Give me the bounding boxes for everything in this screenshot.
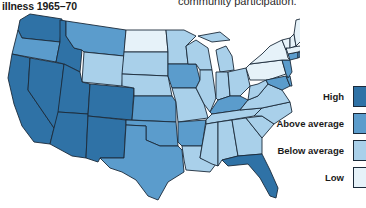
legend-label: Low [325,172,344,183]
state-WA [18,14,62,42]
legend-item-low: Low [236,167,366,189]
state-KS [132,96,176,122]
legend-swatch [353,113,366,134]
legend-swatch [353,167,366,188]
state-ND [124,30,168,52]
state-RI [298,52,300,58]
legend-item-above-average: Above average [236,113,366,135]
legend-label: Above average [276,118,344,129]
state-SD [122,52,168,76]
legend-item-high: High [236,86,366,108]
state-ME [294,18,300,46]
legend-swatch [353,140,366,161]
state-NM [86,116,126,162]
state-CO [88,84,134,120]
state-WY [82,52,124,86]
legend-item-below-average: Below average [236,140,366,162]
legend-label: High [323,91,344,102]
state-IA [168,64,200,88]
state-AR [178,120,206,146]
legend-swatch [353,86,366,107]
legend-label: Below average [277,145,344,156]
